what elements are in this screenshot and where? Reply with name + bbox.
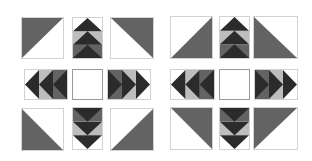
half-square-triangle-icon [254, 17, 297, 58]
half-square-triangle-icon [254, 108, 297, 149]
arrow-right-icon [255, 70, 297, 99]
arrow-up-icon [220, 17, 249, 58]
flying-geese-right [254, 69, 298, 100]
flying-geese-left [170, 69, 215, 100]
flying-geese-up [219, 16, 250, 59]
half-square-triangle-icon [171, 108, 212, 149]
right-quilt-block [0, 0, 312, 161]
center-square [219, 69, 250, 100]
flying-geese-down [219, 107, 250, 150]
corner-half-square-triangle [253, 16, 298, 59]
half-square-triangle-icon [171, 17, 212, 58]
corner-half-square-triangle [170, 107, 213, 150]
corner-half-square-triangle [253, 107, 298, 150]
corner-half-square-triangle [170, 16, 213, 59]
arrow-left-icon [171, 70, 214, 99]
arrow-down-icon [220, 108, 249, 149]
